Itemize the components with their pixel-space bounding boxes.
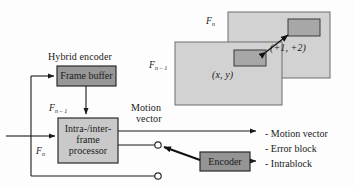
- encoder-label: Encoder: [200, 157, 250, 168]
- processor-label-line3: processor: [58, 146, 118, 157]
- processor-label-line2: frame: [58, 135, 118, 146]
- block-previous-rect: [234, 50, 266, 66]
- figure-canvas: Hybrid encoder Frame buffer Intra-/inter…: [0, 0, 354, 188]
- motion-vector-caption-line2: vector: [136, 114, 162, 124]
- illustration-group: [175, 12, 330, 105]
- frame-previous-label: Fn – 1: [149, 61, 167, 71]
- motion-vector-caption-line1: Motion: [131, 103, 161, 113]
- signal-label-fn-minus-1-left: Fn – 1: [49, 104, 67, 114]
- signal-subscript: n – 1: [55, 108, 68, 114]
- block-current-rect: [288, 19, 320, 36]
- terminal-upper[interactable]: [155, 142, 161, 148]
- frame-label-subscript: n – 1: [155, 65, 168, 71]
- output-label-motion-vector: - Motion vector: [265, 128, 328, 139]
- hybrid-encoder-caption: Hybrid encoder: [48, 52, 112, 62]
- terminal-lower[interactable]: [155, 173, 161, 179]
- output-label-intrablock: - Intrablock: [265, 158, 312, 169]
- coordinate-label-previous: (x, y): [212, 70, 233, 80]
- output-label-error-block: - Error block: [265, 143, 317, 154]
- coordinate-label-displacement: (+1, +2): [270, 43, 306, 53]
- frame-buffer-label: Frame buffer: [57, 71, 116, 82]
- frame-label-subscript: n: [212, 21, 215, 27]
- signal-label-fn-left: Fn: [36, 147, 45, 157]
- frame-current-label: Fn: [206, 17, 215, 27]
- signal-subscript: n: [42, 151, 45, 157]
- processor-label-line1: Intra-/inter-: [58, 124, 118, 135]
- encoder-to-terminal-arrow: [164, 147, 200, 160]
